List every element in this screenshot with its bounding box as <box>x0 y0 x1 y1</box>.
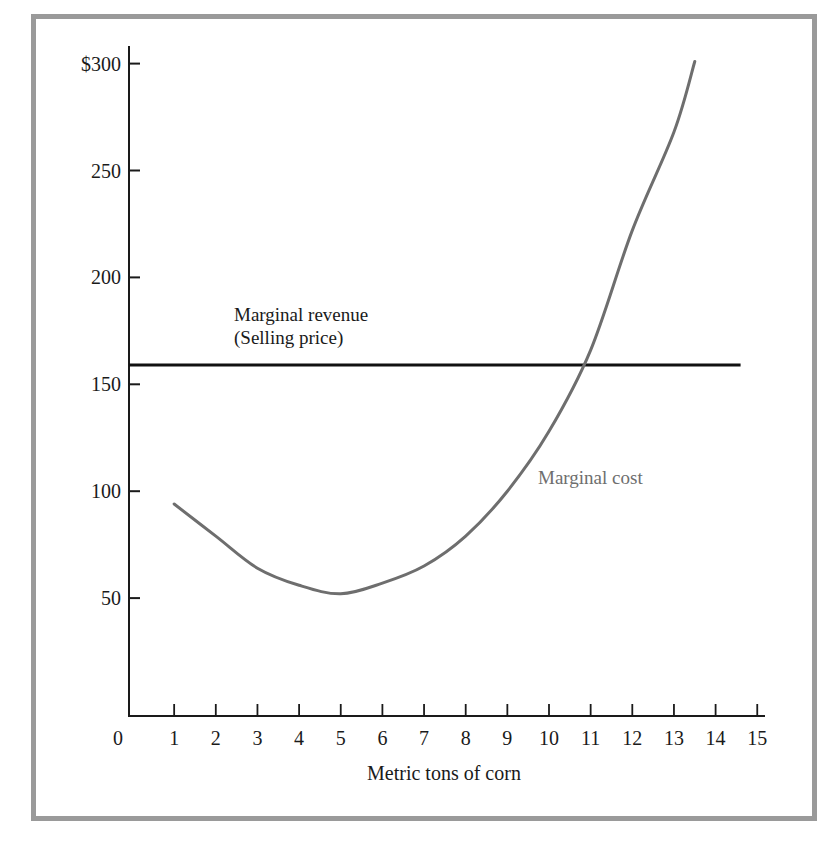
y-tick-label: 150 <box>91 373 121 395</box>
x-tick-label: 11 <box>581 727 600 749</box>
marginal-revenue-label: Marginal revenue <box>234 304 368 325</box>
x-tick-label: 12 <box>622 727 642 749</box>
x-tick-label: 2 <box>211 727 221 749</box>
x-axis-label: Metric tons of corn <box>367 762 521 784</box>
y-tick-label: $300 <box>81 53 121 75</box>
x-tick-label: 9 <box>502 727 512 749</box>
x-tick-label: 5 <box>336 727 346 749</box>
marginal-cost-chart: 50100150200250$300 123456789101112131415… <box>0 0 829 851</box>
y-tick-label: 50 <box>101 587 121 609</box>
x-tick-label: 6 <box>377 727 387 749</box>
x-tick-label: 1 <box>169 727 179 749</box>
x-tick-label: 8 <box>461 727 471 749</box>
x-tick-label: 14 <box>706 727 726 749</box>
x-tick-label: 4 <box>294 727 304 749</box>
x-tick-label: 10 <box>539 727 559 749</box>
y-tick-label: 250 <box>91 160 121 182</box>
y-tick-label: 200 <box>91 266 121 288</box>
x-tick-label: 13 <box>664 727 684 749</box>
x-tick-label: 3 <box>252 727 262 749</box>
y-ticks: 50100150200250$300 <box>81 53 140 610</box>
x-tick-label: 15 <box>747 727 767 749</box>
marginal-cost-label: Marginal cost <box>538 467 643 488</box>
x-ticks: 123456789101112131415 <box>169 704 767 749</box>
y-tick-label: 100 <box>91 480 121 502</box>
x-tick-label: 7 <box>419 727 429 749</box>
origin-label: 0 <box>113 727 123 749</box>
selling-price-label: (Selling price) <box>234 327 343 349</box>
